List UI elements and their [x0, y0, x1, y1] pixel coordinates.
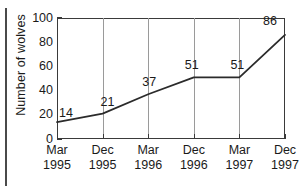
data-point-label: 21 — [101, 96, 115, 109]
x-tick-label: Dec1996 — [168, 143, 220, 173]
x-tick-label: Dec1997 — [259, 143, 306, 173]
data-point-label: 86 — [263, 15, 277, 28]
y-tick-label: 20 — [27, 108, 53, 121]
data-point-label: 37 — [142, 76, 156, 89]
data-point-label: 51 — [185, 59, 199, 72]
x-tick-label-year: 1995 — [31, 158, 83, 173]
x-tick-label-month: Mar — [31, 143, 83, 158]
x-tick-label: Mar1995 — [31, 143, 83, 173]
series-line — [57, 18, 285, 139]
x-tick-label-year: 1996 — [122, 158, 174, 173]
y-tick-label: 60 — [27, 60, 53, 73]
x-tick-mark — [285, 134, 286, 139]
data-point-label: 14 — [59, 107, 73, 120]
x-tick-label-month: Dec — [77, 143, 129, 158]
y-tick-label: 100 — [27, 12, 53, 25]
y-tick-label: 40 — [27, 84, 53, 97]
left-margin-rule — [5, 8, 7, 186]
x-tick-label-month: Mar — [213, 143, 265, 158]
y-tick-label: 80 — [27, 36, 53, 49]
data-point-label: 51 — [230, 59, 244, 72]
x-tick-label-year: 1995 — [77, 158, 129, 173]
x-tick-label: Mar1996 — [122, 143, 174, 173]
y-axis-tick-labels: 020406080100 — [25, 18, 53, 139]
wolf-population-line-chart: Number of wolves 020406080100 1421375151… — [0, 0, 306, 186]
x-tick-label-month: Dec — [168, 143, 220, 158]
x-axis-tick-labels: Mar1995Dec1995Mar1996Dec1996Mar1997Dec19… — [57, 143, 285, 183]
x-tick-label: Mar1997 — [213, 143, 265, 173]
plot-area: 142137515186 — [57, 18, 285, 139]
x-tick-label-year: 1997 — [259, 158, 306, 173]
x-tick-label-year: 1997 — [213, 158, 265, 173]
x-tick-label-month: Mar — [122, 143, 174, 158]
x-tick-label-year: 1996 — [168, 158, 220, 173]
x-tick-label: Dec1995 — [77, 143, 129, 173]
x-tick-label-month: Dec — [259, 143, 306, 158]
